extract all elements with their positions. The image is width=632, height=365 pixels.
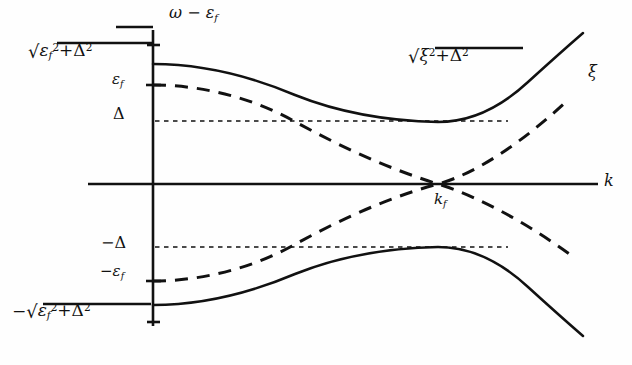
neg-epsilon-f-sub: f — [121, 270, 124, 281]
epsilon-base-bottom: ε — [38, 300, 47, 320]
radical-expression-xi: √ξ2+Δ2 — [408, 48, 472, 66]
delta-sup-xi: 2 — [462, 46, 469, 58]
xtick-label-kf: kf — [434, 192, 447, 208]
curve-xi-positive — [153, 85, 575, 258]
plus-bottom: + — [57, 300, 71, 320]
label-sqrt-xi2-plus-delta2: √ξ2+Δ2 — [408, 48, 472, 66]
radical-expression-bottom: √εf2+Δ2 — [26, 303, 93, 322]
y-axis-label-omega: ω − ε — [169, 3, 214, 22]
kf-sub: f — [443, 198, 446, 209]
neg-epsilon-f-base: −ε — [100, 262, 121, 280]
y-axis-label: ω − εf — [169, 5, 218, 23]
plus-top: + — [59, 40, 73, 60]
xi-base: ξ — [419, 45, 428, 65]
kf-base: k — [434, 190, 443, 208]
radical-expression-top: √εf2+Δ2 — [28, 43, 95, 62]
delta-sup-bottom: 2 — [84, 301, 91, 313]
curve-upper-solid — [153, 33, 583, 122]
ytick-label-neg-delta: −Δ — [101, 235, 126, 251]
x-axis-label: k — [604, 173, 614, 189]
ytick-label-neg-epsilon-f: −εf — [100, 264, 124, 280]
ytick-label-epsilon-f: εf — [112, 72, 124, 88]
radical-body-top: εf2+Δ2 — [37, 42, 95, 60]
figure-container: ω − εf √εf2+Δ2 εf Δ √ξ2+Δ2 ξ k kf −Δ −εf… — [0, 0, 632, 365]
label-xi-asymptote: ξ — [588, 64, 597, 80]
delta-sup-top: 2 — [86, 41, 93, 53]
curve-lower-solid — [153, 247, 583, 336]
delta-base-bottom: Δ — [72, 300, 84, 320]
epsilon-f-base: ε — [112, 70, 120, 88]
delta-base-xi: Δ — [450, 45, 462, 65]
y-axis-label-sub: f — [214, 12, 218, 23]
ytick-label-delta: Δ — [113, 106, 125, 122]
label-neg-sqrt-ef2-plus-delta2: − √εf2+Δ2 — [12, 303, 94, 322]
epsilon-base-top: ε — [39, 40, 48, 60]
delta-base-top: Δ — [73, 40, 85, 60]
plus-xi: + — [435, 45, 449, 65]
epsilon-f-sub: f — [120, 78, 123, 89]
label-sqrt-ef2-plus-delta2: √εf2+Δ2 — [28, 43, 95, 62]
minus-sign-bottom: − — [12, 301, 26, 321]
radical-body-bottom: εf2+Δ2 — [36, 302, 94, 320]
radical-body-xi: ξ2+Δ2 — [417, 47, 471, 64]
